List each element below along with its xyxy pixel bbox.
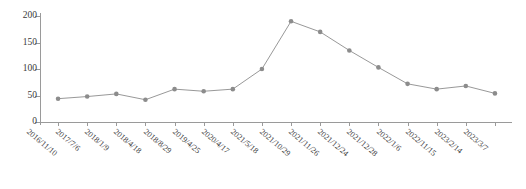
data-point — [434, 87, 439, 92]
data-point — [231, 87, 236, 92]
caption-strip — [0, 182, 526, 189]
data-point — [172, 87, 177, 92]
data-point — [376, 65, 381, 70]
data-point — [405, 82, 410, 87]
data-point — [289, 19, 294, 24]
data-point — [260, 67, 265, 72]
data-point — [318, 30, 323, 35]
series-line — [58, 21, 495, 99]
data-point — [114, 92, 119, 97]
line-chart: 050100150200 2016/11/102017/7/62018/1/92… — [0, 0, 526, 189]
data-point — [201, 89, 206, 94]
data-point — [85, 94, 90, 99]
data-point — [56, 96, 61, 101]
data-point — [347, 48, 352, 53]
data-point — [493, 91, 498, 96]
data-point — [143, 97, 148, 102]
data-point — [464, 84, 469, 89]
data-series — [0, 0, 526, 189]
